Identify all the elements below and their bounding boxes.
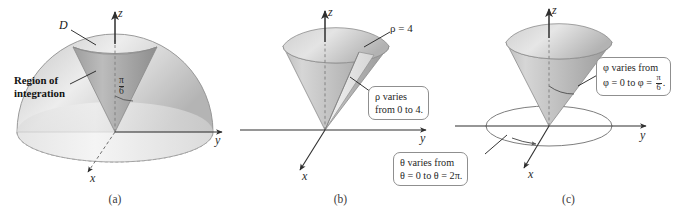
panel-c-graphic: z y x [450, 0, 687, 211]
solid-d-label: D [59, 18, 68, 33]
z-axis-label: z [551, 3, 557, 17]
phi-varies-callout: φ varies from φ = 0 to φ = π6. [596, 57, 671, 96]
panel-c-caption: (c) [450, 193, 687, 205]
rho-callout-line2: from 0 to 4. [375, 104, 423, 115]
spherical-cap [283, 28, 389, 63]
panel-b-caption: (b) [228, 193, 453, 205]
panel-a-graphic: z y x [0, 0, 230, 211]
region-of-integration-label: Region of integration [14, 74, 65, 99]
spherical-coordinates-figure: z y x D Region of integration π 6 (a) [0, 0, 687, 211]
x-axis-label: x [89, 171, 96, 185]
phi-callout-line2-post: . [663, 77, 666, 88]
region-label-line1: Region of [14, 74, 58, 86]
x-axis [300, 130, 325, 170]
theta-callout-line2: θ = 0 to θ = 2π. [400, 170, 462, 181]
rho-varies-callout: ρ varies from 0 to 4. [368, 86, 429, 120]
panel-c: z y x φ varies from φ = 0 to φ = π6. θ v… [450, 0, 687, 211]
theta-varies-callout: θ varies from θ = 0 to θ = 2π. [393, 152, 468, 186]
angle-denominator: 6 [119, 87, 124, 97]
z-axis-label: z [327, 5, 333, 19]
rho-equals-four-label: ρ = 4 [390, 22, 413, 34]
phi-callout-line2-pre: φ = 0 to φ = [603, 77, 655, 88]
panel-a-caption: (a) [0, 193, 230, 205]
x-axis-label: x [527, 167, 534, 181]
region-label-line2: integration [14, 87, 65, 99]
pi-over-six-angle-label: π 6 [119, 76, 124, 97]
phi-callout-fraction: π6 [656, 74, 662, 92]
x-axis-label: x [301, 169, 308, 183]
panel-a: z y x D Region of integration π 6 (a) [0, 0, 230, 211]
x-axis [524, 126, 549, 168]
phi-fraction-denominator: 6 [656, 84, 662, 93]
spherical-cap [506, 24, 612, 59]
z-axis-label: z [117, 6, 123, 20]
y-axis-label: y [214, 133, 221, 147]
theta-callout-line1-rest: varies from [405, 157, 454, 168]
y-axis-label: y [639, 128, 646, 142]
phi-callout-line1-rest: varies from [609, 62, 658, 73]
y-axis-label: y [419, 131, 426, 145]
rho-callout-line1-rest: varies [380, 91, 407, 102]
theta-callout-leader-line [485, 135, 507, 154]
